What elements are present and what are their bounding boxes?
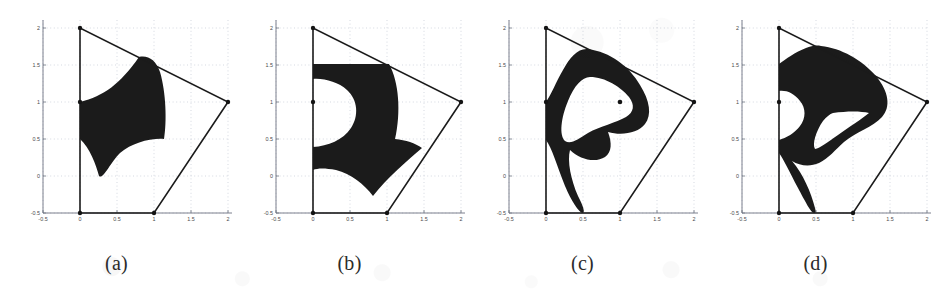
plot-a: -0.5 0 0.5 1 1.5 2 -0.5 0 0.5 1 1.5 2 [0, 0, 233, 250]
plot-d: -0.5 0 0.5 1 1.5 2 -0.5 0 0.5 1 1.5 2 [699, 0, 932, 250]
xtick-label: 0.5 [579, 216, 587, 222]
ytick-label: 1.5 [266, 62, 274, 68]
axes-d [742, 20, 931, 213]
ytick-label: 0.5 [33, 136, 41, 142]
ytick-label: 1.5 [499, 62, 507, 68]
xtick-label: 2 [926, 216, 929, 222]
xtick-label: 1.5 [653, 216, 661, 222]
axes-c [509, 20, 698, 213]
ytick-label: 0 [736, 173, 739, 179]
xtick-label: 2 [693, 216, 696, 222]
ytick-label: -0.5 [31, 210, 40, 216]
ytick-label: 0.5 [732, 136, 740, 142]
ytick-label: 1.5 [732, 62, 740, 68]
xtick-label: 0.5 [113, 216, 121, 222]
ytick-label: 1 [270, 99, 273, 105]
ytick-label: 1 [37, 99, 40, 105]
panel-caption-b: (b) [233, 252, 466, 275]
xtick-label: 0 [312, 216, 315, 222]
ytick-label: 0 [37, 173, 40, 179]
xtick-label: 0 [545, 216, 548, 222]
ytick-label: 2 [270, 25, 273, 31]
panel-c: -0.5 0 0.5 1 1.5 2 -0.5 0 0.5 1 1.5 2 [466, 0, 699, 303]
xtick-label: 1 [386, 216, 389, 222]
ytick-label: -0.5 [264, 210, 273, 216]
xtick-label: 0.5 [812, 216, 820, 222]
ytick-label: 2 [503, 25, 506, 31]
gridlines-c [509, 20, 694, 213]
ytick-label: -0.5 [497, 210, 506, 216]
ytick-label: 2 [736, 25, 739, 31]
filled-region-d [779, 46, 888, 213]
xtick-label: 2 [460, 216, 463, 222]
panel-caption-c: (c) [466, 252, 699, 275]
xtick-label: 1.5 [420, 216, 428, 222]
xtick-label: 0.5 [346, 216, 354, 222]
panel-caption-a: (a) [0, 252, 233, 275]
panel-a: -0.5 0 0.5 1 1.5 2 -0.5 0 0.5 1 1.5 2 [0, 0, 233, 303]
xtick-label: 0 [79, 216, 82, 222]
ytick-label: 0 [270, 173, 273, 179]
panel-d: -0.5 0 0.5 1 1.5 2 -0.5 0 0.5 1 1.5 2 (d… [699, 0, 932, 303]
xtick-label: 1 [619, 216, 622, 222]
isolated-point-c [618, 100, 623, 105]
ytick-label: 2 [37, 25, 40, 31]
ytick-label: 1 [503, 99, 506, 105]
ytick-label: 0.5 [266, 136, 274, 142]
panel-caption-d: (d) [699, 252, 932, 275]
xtick-label: 1 [852, 216, 855, 222]
plot-b: -0.5 0 0.5 1 1.5 2 -0.5 0 0.5 1 1.5 2 [233, 0, 466, 250]
ytick-label: 1 [736, 99, 739, 105]
filled-region-c [546, 49, 649, 213]
plot-c: -0.5 0 0.5 1 1.5 2 -0.5 0 0.5 1 1.5 2 [466, 0, 699, 250]
filled-region-a [80, 57, 166, 177]
xtick-label: 1.5 [187, 216, 195, 222]
figure-panel-row: -0.5 0 0.5 1 1.5 2 -0.5 0 0.5 1 1.5 2 [0, 0, 932, 303]
xtick-label: -0.5 [737, 216, 746, 222]
xtick-label: 2 [227, 216, 230, 222]
xtick-label: -0.5 [38, 216, 47, 222]
panel-b: -0.5 0 0.5 1 1.5 2 -0.5 0 0.5 1 1.5 2 (b… [233, 0, 466, 303]
ytick-label: -0.5 [730, 210, 739, 216]
ytick-label: 0 [503, 173, 506, 179]
xtick-label: -0.5 [504, 216, 513, 222]
xtick-label: 1.5 [886, 216, 894, 222]
ytick-label: 0.5 [499, 136, 507, 142]
xtick-label: 0 [778, 216, 781, 222]
xtick-label: -0.5 [271, 216, 280, 222]
xtick-label: 1 [153, 216, 156, 222]
ytick-label: 1.5 [33, 62, 41, 68]
